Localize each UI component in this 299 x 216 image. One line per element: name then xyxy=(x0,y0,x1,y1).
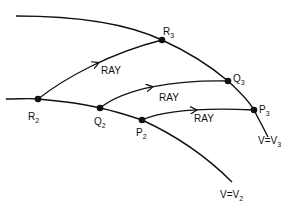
ray-label-3: RAY xyxy=(194,113,214,124)
point-p2 xyxy=(139,117,146,124)
wavefront-ray-diagram: R2 Q2 P2 R3 Q3 P3 RAY RAY RAY V=V3 V=V2 xyxy=(0,0,299,216)
ray-q2-q3-arrow xyxy=(100,87,152,108)
label-p3: P3 xyxy=(259,104,270,117)
wavefront-v2-curve xyxy=(6,99,232,182)
label-p2: P2 xyxy=(136,127,147,140)
ray-p2-p3-arrow xyxy=(142,110,196,120)
label-r2: R2 xyxy=(28,111,39,124)
label-v-v3: V=V3 xyxy=(258,135,281,148)
point-q2 xyxy=(97,105,104,112)
point-r2 xyxy=(35,96,42,103)
point-p3 xyxy=(251,107,258,114)
point-q3 xyxy=(225,78,232,85)
ray-label-2: RAY xyxy=(159,92,179,103)
label-r3: R3 xyxy=(163,26,174,39)
point-r3 xyxy=(159,37,166,44)
label-q2: Q2 xyxy=(94,116,106,129)
label-v-v2: V=V2 xyxy=(220,189,243,202)
label-q3: Q3 xyxy=(233,73,245,86)
ray-r2-r3 xyxy=(38,40,162,99)
ray-label-1: RAY xyxy=(101,65,121,76)
ray-r2-r3-arrow xyxy=(38,63,98,99)
